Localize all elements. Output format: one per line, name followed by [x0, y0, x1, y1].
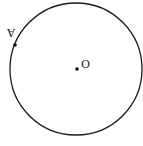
- circle-diagram: A O: [0, 0, 143, 146]
- label-a: A: [6, 26, 16, 39]
- point-a-dot: [13, 43, 17, 47]
- center-o-dot: [75, 67, 79, 71]
- label-o: O: [81, 58, 90, 71]
